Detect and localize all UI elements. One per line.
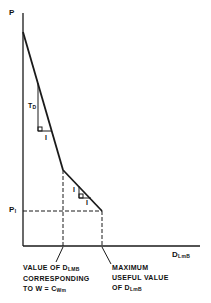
annotation-left-line2: CORRESPONDING: [23, 274, 90, 284]
slope1-horizontal-label: I: [45, 133, 47, 143]
annotation-right-line1: MAXIMUM: [112, 263, 169, 273]
annotation-left-line1: VALUE OF DLMB: [23, 263, 90, 274]
y-axis-label: P: [9, 8, 15, 18]
annotation-right-line2: USEFUL VALUE: [112, 273, 169, 283]
slope1-vertical-label: TD: [28, 101, 37, 112]
leader-right: [102, 247, 111, 264]
p-level-label: PI: [9, 205, 16, 216]
leader-left: [56, 247, 63, 262]
slope2-horizontal-label: I: [86, 198, 88, 208]
annotation-right-line3: OF DLmB: [112, 283, 169, 294]
annotation-left: VALUE OF DLMB CORRESPONDING TO W = CWm: [23, 263, 90, 295]
x-axis-label: DLmB: [172, 250, 190, 261]
annotation-left-line3: TO W = CWm: [23, 284, 90, 295]
slope2-vertical-label: I: [73, 185, 75, 195]
curve-segment-shallow: [63, 170, 102, 211]
annotation-right: MAXIMUM USEFUL VALUE OF DLmB: [112, 263, 169, 294]
